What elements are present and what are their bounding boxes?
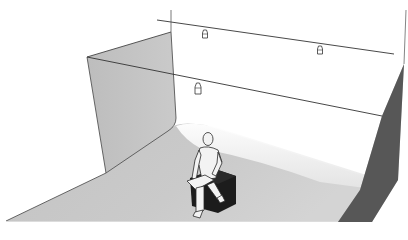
light-1 bbox=[203, 30, 208, 38]
studio-scene bbox=[0, 0, 408, 240]
light-2 bbox=[318, 46, 323, 54]
light-3 bbox=[195, 83, 201, 94]
light-rail-back bbox=[157, 10, 394, 54]
